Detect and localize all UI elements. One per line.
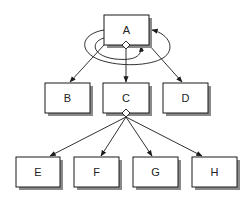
node-d-label: D — [182, 92, 190, 104]
node-d[interactable]: D — [163, 83, 211, 116]
edges-from-c — [50, 117, 202, 156]
node-f-label: F — [93, 166, 100, 178]
hierarchy-diagram: A B C D E F G H — [0, 0, 249, 200]
node-g[interactable]: G — [133, 157, 181, 190]
node-g-label: G — [151, 166, 160, 178]
edge-a-d — [149, 45, 182, 82]
edge-c-g — [126, 117, 152, 156]
edge-c-f — [101, 117, 126, 156]
edge-c-h — [126, 117, 202, 156]
node-a-label: A — [123, 24, 131, 36]
node-c-label: C — [122, 92, 130, 104]
node-e[interactable]: E — [16, 157, 63, 190]
node-b-label: B — [64, 92, 71, 104]
node-h-label: H — [211, 166, 219, 178]
edge-c-e — [50, 117, 126, 156]
node-h[interactable]: H — [192, 157, 240, 190]
node-e-label: E — [34, 166, 41, 178]
node-b[interactable]: B — [45, 83, 93, 116]
node-f[interactable]: F — [74, 157, 122, 190]
